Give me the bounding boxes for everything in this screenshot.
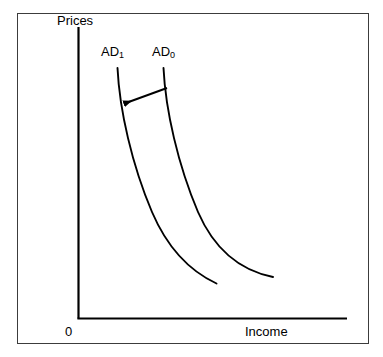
x-axis-label: Income [245,325,288,338]
leftward-shift-arrow [125,88,168,104]
curve-label-ad0: AD0 [152,45,175,58]
curve-label-ad1: AD1 [101,45,124,58]
curve-label-ad0-text: AD [152,44,170,59]
curve-label-ad1-subscript: 1 [119,50,124,60]
plot-canvas [0,0,383,357]
curve-label-ad1-text: AD [101,44,119,59]
ad0-curve [164,68,274,277]
y-axis-label: Prices [57,14,93,27]
aggregate-demand-shift-figure: Prices Income 0 AD1 AD0 [0,0,383,357]
origin-label: 0 [65,325,72,338]
curve-label-ad0-subscript: 0 [170,50,175,60]
